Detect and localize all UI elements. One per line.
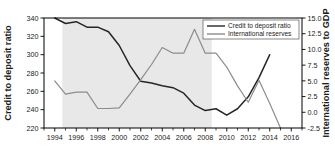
y2-tick-label: 7.5 xyxy=(308,61,318,70)
y2-tick-label: 5.0 xyxy=(308,77,318,86)
y-tick-label: 320 xyxy=(27,32,39,41)
y2-tick-label: -2.5 xyxy=(308,124,320,133)
x-tick-label: 1998 xyxy=(90,133,106,142)
legend-label-1: Credit to deposit ratio xyxy=(228,22,291,30)
x-tick-label: 2014 xyxy=(262,133,278,142)
x-tick-label: 2000 xyxy=(111,133,127,142)
y2-tick-label: 2.5 xyxy=(308,92,318,101)
y-tick-label: 240 xyxy=(27,105,39,114)
x-tick-label: 2002 xyxy=(133,133,149,142)
y2-tick-label: 10.0 xyxy=(308,45,322,54)
y-tick-label: 220 xyxy=(27,124,39,133)
x-tick-label: 2008 xyxy=(197,133,213,142)
x-tick-label: 2016 xyxy=(283,133,299,142)
x-tick-label: 1996 xyxy=(68,133,84,142)
x-tick-label: 2006 xyxy=(176,133,192,142)
y2-axis-title: International reserves to GDP xyxy=(321,8,331,137)
y2-tick-label: 15.0 xyxy=(308,14,322,23)
x-tick-label: 1994 xyxy=(47,133,63,142)
x-tick-label: 2012 xyxy=(240,133,256,142)
x-tick-label: 2004 xyxy=(154,133,170,142)
y-tick-label: 280 xyxy=(27,69,39,78)
line-chart: 1994199619982000200220042006200820102012… xyxy=(0,0,335,149)
y-tick-label: 300 xyxy=(27,50,39,59)
y-tick-label: 260 xyxy=(27,87,39,96)
y2-tick-label: 0.0 xyxy=(308,108,318,117)
y-axis-title: Credit to deposit ratio xyxy=(3,25,13,121)
chart-figure: 1994199619982000200220042006200820102012… xyxy=(0,0,335,149)
x-tick-label: 2010 xyxy=(219,133,235,142)
legend-label-2: International reserves xyxy=(228,30,292,37)
y-tick-label: 340 xyxy=(27,14,39,23)
y2-tick-label: 12.5 xyxy=(308,29,322,38)
shaded-region xyxy=(62,18,211,128)
